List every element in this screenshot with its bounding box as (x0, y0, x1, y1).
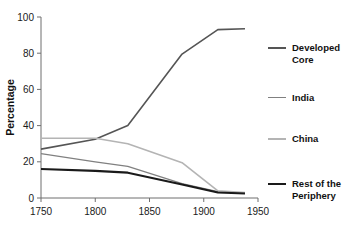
legend-line-swatch-icon (268, 183, 286, 185)
legend-item[interactable]: China (268, 133, 354, 145)
y-tick-label: 100 (17, 12, 34, 23)
legend-item-label: Developed Core (292, 42, 340, 65)
y-axis-title: Percentage (4, 79, 16, 136)
data-series-group (41, 29, 245, 194)
legend-item[interactable]: Developed Core (268, 42, 354, 65)
legend-line-swatch-icon (268, 47, 286, 49)
x-tick-label: 1750 (30, 206, 53, 217)
chart-screenshot: 020406080100 17501800185019001950 Percen… (0, 0, 354, 230)
x-tick-label: 1850 (138, 206, 161, 217)
y-axis-ticks: 020406080100 (17, 12, 41, 204)
x-tick-label: 1800 (84, 206, 107, 217)
y-tick-label: 80 (23, 48, 35, 59)
legend-item-label: China (292, 133, 318, 145)
y-tick-label: 20 (23, 156, 35, 167)
series-line (41, 169, 245, 193)
x-tick-label: 1950 (247, 206, 270, 217)
legend-line-swatch-icon (268, 97, 286, 98)
line-chart: 020406080100 17501800185019001950 Percen… (0, 0, 270, 230)
legend-item[interactable]: India (268, 92, 354, 104)
chart-canvas: 020406080100 17501800185019001950 Percen… (0, 0, 270, 230)
x-axis-ticks: 17501800185019001950 (30, 198, 270, 217)
chart-legend: Developed CoreIndiaChinaRest of the Peri… (268, 0, 354, 230)
legend-item-label: India (292, 92, 314, 104)
y-tick-label: 60 (23, 84, 35, 95)
legend-item[interactable]: Rest of the Periphery (268, 178, 354, 201)
y-tick-label: 0 (28, 193, 34, 204)
y-tick-label: 40 (23, 120, 35, 131)
x-tick-label: 1900 (193, 206, 216, 217)
series-line (41, 29, 245, 149)
legend-item-label: Rest of the Periphery (292, 178, 341, 201)
series-line (41, 138, 245, 192)
legend-line-swatch-icon (268, 138, 286, 140)
